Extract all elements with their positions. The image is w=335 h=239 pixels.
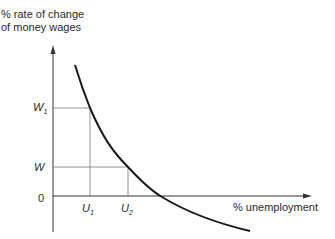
y-axis-label-line2: of money wages [1,21,81,34]
x-axis-arrow-icon [303,194,312,199]
y-tick-w: W [34,161,44,174]
y-axis-arrow-icon [51,45,56,54]
x-tick-u1: U1 [82,202,94,219]
x-axis-label: % unemployment [233,201,318,214]
origin-label: 0 [38,192,44,205]
x-tick-u2: U2 [121,202,133,219]
y-tick-w1: W1 [33,101,47,118]
y-axis-label-line1: % rate of change [1,8,84,21]
phillips-curve [75,65,250,231]
